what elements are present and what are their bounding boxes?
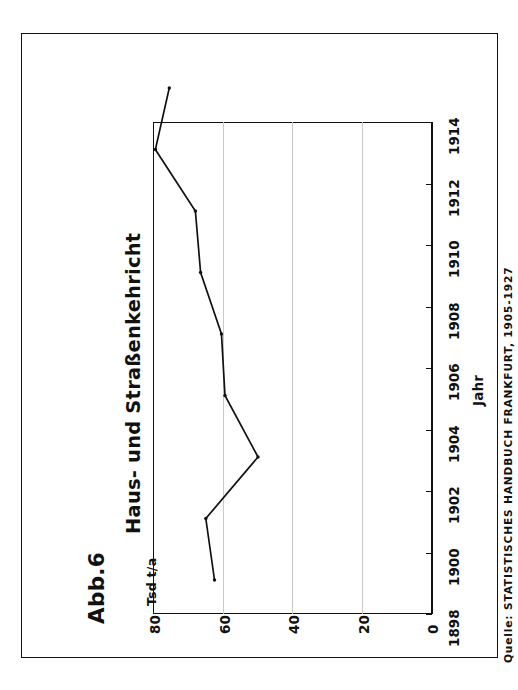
figure-number-label: Abb.6 (84, 552, 109, 624)
figure-page: Abb.6 Haus- und Straßenkehricht in Frank… (0, 0, 518, 690)
value-tick-label-0: 0 (425, 625, 441, 634)
value-tick-label-40: 40 (286, 615, 302, 634)
year-tick-1898 (426, 614, 432, 615)
source-note: Quelle: STATISTISCHES HANDBUCH FRANKFURT… (502, 267, 514, 663)
year-tick-1904 (426, 430, 432, 431)
year-tick-label-1914: 1914 (446, 117, 462, 155)
value-axis-title: Tsd t/a (144, 558, 159, 606)
year-tick-1906 (426, 368, 432, 369)
year-tick-label-1908: 1908 (446, 302, 462, 340)
year-tick-label-1900: 1900 (446, 548, 462, 586)
year-tick-label-1898: 1898 (446, 609, 462, 647)
figure-frame: Abb.6 Haus- und Straßenkehricht in Frank… (21, 33, 498, 658)
year-tick-1910 (426, 245, 432, 246)
chart-title-line-1: Haus- und Straßenkehricht (122, 233, 145, 534)
year-tick-label-1912: 1912 (446, 179, 462, 217)
gridline-40 (292, 122, 293, 614)
gridline-60 (223, 122, 224, 614)
year-tick-1908 (426, 307, 432, 308)
year-tick-1914 (426, 122, 432, 123)
value-tick-label-80: 80 (147, 615, 163, 634)
year-axis-title: Jahr (470, 375, 486, 406)
value-tick-label-60: 60 (217, 615, 233, 634)
value-tick-label-20: 20 (356, 615, 372, 634)
year-tick-label-1902: 1902 (446, 486, 462, 524)
year-tick-1902 (426, 491, 432, 492)
year-tick-1912 (426, 184, 432, 185)
year-tick-1900 (426, 553, 432, 554)
year-tick-label-1904: 1904 (446, 425, 462, 463)
year-tick-label-1906: 1906 (446, 363, 462, 401)
gridline-20 (362, 122, 363, 614)
year-tick-label-1910: 1910 (446, 240, 462, 278)
